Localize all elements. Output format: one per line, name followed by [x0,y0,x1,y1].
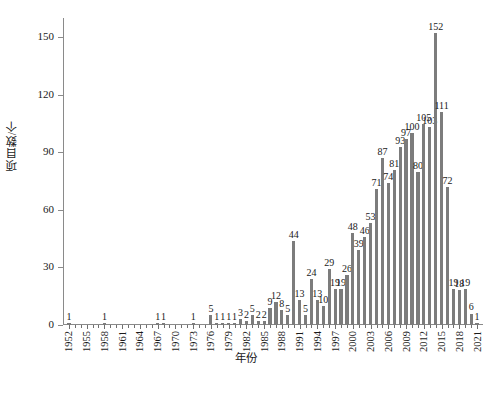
y-tick-label: 120 [38,88,55,100]
bar [452,289,455,325]
bar-value-label: 1 [95,312,113,322]
x-tick [418,325,419,328]
x-tick-label: 2018 [454,331,465,352]
bar-chart: 项目数/个 0306090120150 19521955195819611964… [0,0,492,398]
x-tick-label: 2003 [365,331,376,352]
x-tick [294,325,295,328]
bar [215,323,218,325]
bar [434,33,437,325]
x-tick [158,325,159,329]
x-tick [359,325,360,328]
y-tick-label: 0 [49,318,55,330]
bar-value-label: 87 [373,147,391,157]
bar [286,315,289,325]
x-tick [323,325,324,328]
x-tick [211,325,212,329]
x-tick [205,325,206,328]
bar [67,323,70,325]
x-tick-label: 2006 [383,331,394,352]
x-tick-label: 1994 [312,331,323,352]
bar [334,289,337,325]
x-tick [69,325,70,329]
y-tick-label: 90 [43,145,54,157]
x-tick [459,325,460,329]
bar-value-label: 1 [468,312,486,322]
y-tick: 30 [58,267,63,268]
x-tick [448,325,449,328]
bar [446,187,449,325]
y-tick-label: 150 [38,30,55,42]
x-tick [122,325,123,329]
x-tick-label: 1955 [81,331,92,352]
bar [475,323,478,325]
plot-area: 0306090120150 19521955195819611964196719… [63,18,483,325]
bar [440,112,443,325]
x-tick-label: 1967 [152,331,163,352]
x-tick [264,325,265,329]
bar [245,321,248,325]
x-tick-label: 1982 [241,331,252,352]
x-tick [465,325,466,328]
bar [192,323,195,325]
x-tick [400,325,401,328]
x-tick-label: 1976 [205,331,216,352]
x-tick [258,325,259,328]
x-tick [98,325,99,328]
bar [233,323,236,325]
x-tick-label: 2000 [347,331,358,352]
x-tick [164,325,165,328]
x-tick [199,325,200,328]
bar [345,275,348,325]
x-tick [152,325,153,328]
bar [103,323,106,325]
y-axis-title: 项目数/个 [6,120,22,171]
x-tick [317,325,318,329]
x-tick-label: 1991 [294,331,305,352]
x-tick [252,325,253,328]
bar [310,279,313,325]
x-tick [335,325,336,329]
x-tick [169,325,170,328]
bar-value-label: 100 [403,122,421,132]
x-tick [175,325,176,329]
bar [357,250,360,325]
bar [156,323,159,325]
bar [422,124,425,325]
bar-value-label: 72 [439,176,457,186]
bar [263,321,266,325]
bar [322,306,325,325]
x-tick-label: 1961 [117,331,128,352]
x-tick [471,325,472,328]
bar-value-label: 24 [302,268,320,278]
x-tick [270,325,271,328]
x-tick-label: 1952 [63,331,74,352]
y-tick: 60 [58,210,63,211]
x-tick [146,325,147,328]
x-tick [347,325,348,328]
x-tick [288,325,289,328]
bar [458,290,461,325]
x-tick [223,325,224,328]
x-tick [442,325,443,329]
x-tick [128,325,129,328]
x-tick [81,325,82,328]
bar [339,289,342,325]
x-tick [394,325,395,328]
bar-value-label: 19 [456,278,474,288]
x-tick-label: 2021 [472,331,483,352]
x-tick [229,325,230,329]
x-tick-label: 1958 [99,331,110,352]
x-tick [246,325,247,329]
x-tick [134,325,135,328]
bar-value-label: 1 [184,312,202,322]
x-tick [311,325,312,328]
bar [381,158,384,325]
x-tick [187,325,188,328]
bar [363,237,366,325]
bar [257,321,260,325]
bar [393,170,396,325]
x-tick [110,325,111,328]
bar [375,189,378,325]
x-tick-label: 2012 [418,331,429,352]
x-tick [388,325,389,329]
